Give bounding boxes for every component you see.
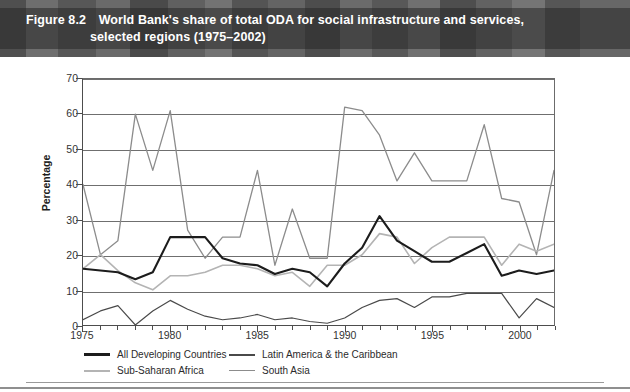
- x-axis-tick-label: 1975: [70, 329, 93, 341]
- x-axis-tick-labels: 197519801985199019952000: [82, 329, 555, 345]
- y-axis-tick-label: 10: [32, 285, 78, 297]
- y-axis-tick-label: 50: [32, 143, 78, 155]
- y-axis-tick-label: 30: [32, 214, 78, 226]
- legend-row-1: All Developing Countries Latin America &…: [84, 349, 484, 363]
- y-axis-tick-labels: 010203040506070: [22, 78, 78, 326]
- legend-swatch-icon: [229, 354, 255, 356]
- series-lines: [83, 79, 554, 325]
- legend-item-all-developing-countries[interactable]: All Developing Countries: [84, 349, 227, 360]
- legend-divider: [26, 382, 604, 383]
- legend-item-sub-saharan-africa[interactable]: Sub-Saharan Africa: [84, 365, 204, 376]
- series-line-sub-saharan-africa: [83, 234, 554, 290]
- figure-title-line1: World Bank's share of total ODA for soci…: [99, 13, 524, 27]
- figure-page: Figure 8.2 World Bank's share of total O…: [0, 0, 630, 392]
- legend-swatch-icon: [84, 370, 110, 372]
- y-axis-tick-label: 20: [32, 249, 78, 261]
- x-axis-tick-label: 2000: [508, 329, 531, 341]
- legend-label: All Developing Countries: [117, 349, 227, 360]
- figure-title-bar: Figure 8.2 World Bank's share of total O…: [0, 0, 630, 57]
- figure-number: Figure 8.2: [26, 13, 86, 27]
- page-bottom-rule: [0, 387, 630, 389]
- x-axis-tick-label: 1985: [245, 329, 268, 341]
- y-axis-tick-label: 70: [32, 72, 78, 84]
- x-axis-tick-label: 1990: [333, 329, 356, 341]
- series-line-south-asia: [83, 107, 554, 265]
- legend-row-2: Sub-Saharan Africa South Asia: [84, 365, 484, 379]
- figure-title-line2: selected regions (1975–2002): [26, 29, 606, 46]
- legend-label: Sub-Saharan Africa: [117, 365, 204, 376]
- legend-item-latin-america-and-the-caribbean[interactable]: Latin America & the Caribbean: [229, 349, 398, 360]
- series-line-latin-america-the-caribbean: [83, 293, 554, 325]
- legend-swatch-icon: [229, 370, 255, 372]
- chart-container: Percentage 010203040506070 1975198019851…: [0, 57, 630, 392]
- legend-item-south-asia[interactable]: South Asia: [229, 365, 310, 376]
- x-axis-tick-label: 1980: [158, 329, 181, 341]
- legend-label: South Asia: [262, 365, 310, 376]
- x-axis-tick: [555, 326, 556, 330]
- y-axis-tick-label: 60: [32, 107, 78, 119]
- legend-swatch-icon: [84, 353, 110, 356]
- y-axis-tick-label: 40: [32, 178, 78, 190]
- chart-legend: All Developing Countries Latin America &…: [84, 349, 484, 381]
- x-axis-tick-label: 1995: [421, 329, 444, 341]
- figure-title: Figure 8.2 World Bank's share of total O…: [26, 12, 606, 46]
- plot-area: [82, 78, 555, 326]
- legend-label: Latin America & the Caribbean: [262, 349, 398, 360]
